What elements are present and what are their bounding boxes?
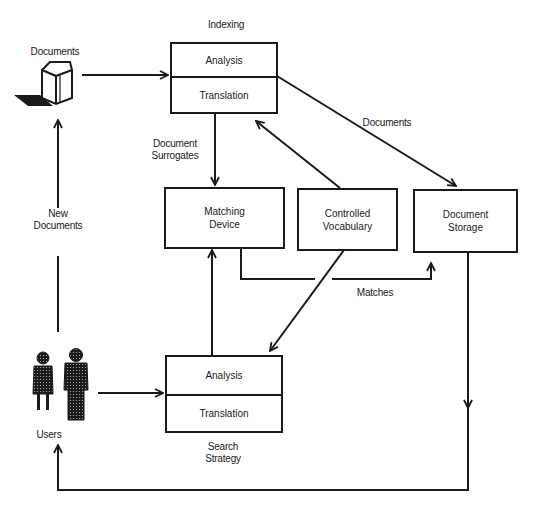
users-icon [33, 349, 88, 421]
document-surrogates-label: Document Surrogates [140, 138, 210, 162]
document-storage-label: DocumentStorage [415, 191, 516, 251]
edge-matches-part2 [332, 263, 431, 279]
documents-source-label: Documents [20, 46, 90, 58]
search-strategy-box: Analysis Translation [165, 355, 283, 433]
surrogates-line1: Document [140, 138, 210, 150]
indexing-analysis: Analysis [172, 44, 276, 78]
documents-edge-label: Documents [352, 117, 422, 129]
document-storage-box: DocumentStorage [413, 189, 518, 253]
matching-line2: Device [204, 218, 245, 231]
vocab-line1: Controlled [323, 207, 372, 220]
matching-line1: Matching [204, 205, 245, 218]
surrogates-line2: Surrogates [140, 150, 210, 162]
new-docs-line1: New [23, 208, 93, 220]
indexing-translation: Translation [172, 78, 276, 112]
matching-device-label: MatchingDevice [166, 189, 283, 247]
controlled-vocabulary-box: ControlledVocabulary [297, 188, 398, 251]
edge-indexing-to-storage [277, 76, 456, 186]
edge-vocab-to-indexing [256, 121, 340, 188]
search-translation: Translation [167, 396, 281, 431]
edge-vocab-to-search [270, 250, 344, 351]
edge-matches-part1 [241, 248, 315, 279]
matches-label: Matches [345, 287, 405, 299]
new-documents-label: New Documents [23, 208, 93, 232]
search-caption-line2: Strategy [193, 453, 253, 465]
controlled-vocabulary-label: ControlledVocabulary [299, 190, 396, 249]
new-docs-line2: Documents [23, 220, 93, 232]
matching-device-box: MatchingDevice [164, 187, 285, 249]
search-caption-line1: Search [193, 441, 253, 453]
users-label: Users [29, 429, 69, 441]
search-strategy-caption: Search Strategy [193, 441, 253, 465]
storage-line2: Storage [443, 221, 489, 234]
indexing-box: Analysis Translation [170, 42, 278, 114]
search-analysis: Analysis [167, 357, 281, 396]
vocab-line2: Vocabulary [323, 220, 372, 233]
indexing-title: Indexing [196, 19, 256, 31]
storage-line1: Document [443, 208, 489, 221]
document-stack-icon [14, 62, 72, 106]
